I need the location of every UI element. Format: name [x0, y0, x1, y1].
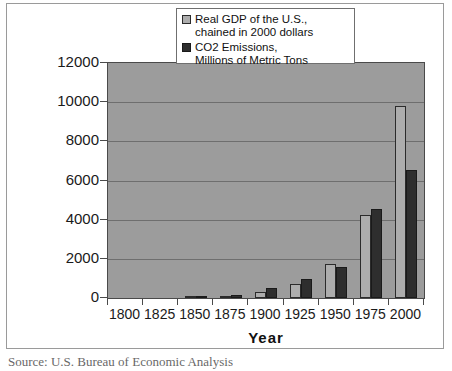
y-axis-label: 8000 [39, 132, 99, 147]
x-axis-tick [177, 299, 178, 305]
y-axis-label: 0 [39, 289, 99, 304]
x-axis-label-1975: 1975 [353, 307, 388, 321]
bar-co2-1925 [301, 279, 312, 298]
y-axis-tick [100, 219, 107, 220]
legend-entry-gdp: Real GDP of the U.S., chained in 2000 do… [182, 13, 349, 38]
x-axis-label-2000: 2000 [388, 307, 423, 321]
chart-frame: 120001000080006000400020000 180018251850… [6, 3, 444, 349]
bar-gdp-1900 [255, 292, 266, 298]
bar-co2-1900 [266, 288, 277, 298]
x-axis-ticks [107, 299, 425, 306]
y-axis-label: 2000 [39, 250, 99, 265]
y-axis-label: 12000 [39, 54, 99, 69]
y-axis-tick [100, 258, 107, 259]
bar-co2-1975 [371, 209, 382, 298]
x-axis-tick [142, 299, 143, 305]
y-axis-tick [100, 140, 107, 141]
x-axis-tick [423, 299, 424, 305]
y-axis-tick [100, 297, 107, 298]
x-axis-tick [212, 299, 213, 305]
x-axis-tick [283, 299, 284, 305]
x-axis-label-1825: 1825 [142, 307, 177, 321]
bar-co2-2000 [406, 170, 417, 298]
bar-gdp-1950 [325, 264, 336, 298]
y-axis-label: 6000 [39, 172, 99, 187]
y-axis-labels: 120001000080006000400020000 [35, 4, 99, 304]
chart-legend: Real GDP of the U.S., chained in 2000 do… [176, 8, 355, 64]
bar-gdp-1850 [185, 296, 196, 298]
x-axis-label-1800: 1800 [107, 307, 142, 321]
y-axis-tick [100, 101, 107, 102]
legend-entry-co2: CO2 Emissions, Millions of Metric Tons [182, 41, 349, 66]
bar-gdp-1975 [360, 215, 371, 298]
bar-gdp-2000 [395, 106, 406, 298]
bar-co2-1850 [196, 296, 207, 298]
chart-figure: 120001000080006000400020000 180018251850… [0, 0, 452, 371]
bar-co2-1950 [336, 267, 347, 298]
y-axis-label: 4000 [39, 211, 99, 226]
x-axis-tick [107, 299, 108, 305]
x-axis-label-1925: 1925 [283, 307, 318, 321]
y-axis-label: 10000 [39, 93, 99, 108]
bar-co2-1875 [231, 295, 242, 298]
x-axis-tick [318, 299, 319, 305]
x-axis-title: Year [107, 329, 425, 346]
y-axis-tick [100, 180, 107, 181]
legend-label-co2: CO2 Emissions, Millions of Metric Tons [195, 41, 308, 66]
bar-series-container [108, 63, 424, 298]
x-axis-labels: 180018251850187519001925195019752000 [107, 307, 425, 327]
x-axis-label-1850: 1850 [177, 307, 212, 321]
bar-gdp-1925 [290, 284, 301, 298]
y-axis-tick [100, 62, 107, 63]
legend-swatch-gdp-icon [182, 15, 191, 24]
x-axis-label-1950: 1950 [318, 307, 353, 321]
x-axis-tick [388, 299, 389, 305]
bar-gdp-1875 [220, 296, 231, 298]
x-axis-label-1900: 1900 [247, 307, 282, 321]
legend-swatch-co2-icon [182, 43, 191, 52]
x-axis-tick [353, 299, 354, 305]
x-axis-label-1875: 1875 [212, 307, 247, 321]
plot-area [107, 62, 425, 299]
x-axis-tick [247, 299, 248, 305]
source-caption-text: Source: U.S. Bureau of Economic Analysis [8, 357, 448, 370]
source-caption: Source: U.S. Bureau of Economic Analysis [8, 357, 448, 371]
legend-label-gdp: Real GDP of the U.S., chained in 2000 do… [195, 13, 313, 38]
